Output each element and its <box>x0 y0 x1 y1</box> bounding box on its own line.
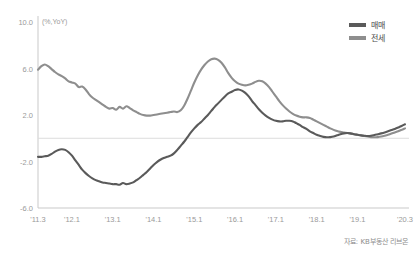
x-tick-label: '12.1 <box>64 215 80 224</box>
legend-label: 전세 <box>371 33 385 43</box>
y-tick-label: -2.0 <box>20 158 33 167</box>
x-tick-label: '13.1 <box>105 215 121 224</box>
x-tick-label: '14.1 <box>146 215 162 224</box>
x-tick-label: '15.1 <box>186 215 202 224</box>
chart-container: 10.06.02.0-2.0-6.0 '11.3'12.1'13.1'14.1'… <box>0 0 414 257</box>
y-tick-label: 10.0 <box>18 18 33 27</box>
line-chart: 10.06.02.0-2.0-6.0 '11.3'12.1'13.1'14.1'… <box>0 0 414 257</box>
x-tick-label: '20.3 <box>397 215 413 224</box>
x-tick-label: '17.1 <box>268 215 284 224</box>
x-tick-label: '16.1 <box>227 215 243 224</box>
legend-swatch <box>349 36 366 40</box>
x-tick-label: '18.1 <box>309 215 325 224</box>
y-tick-label: -6.0 <box>20 204 33 213</box>
x-tick-label: '19.1 <box>349 215 365 224</box>
x-tick-label: '11.3 <box>30 215 45 224</box>
y-tick-label: 6.0 <box>23 65 33 74</box>
unit-label: (%,YoY) <box>42 18 67 26</box>
y-tick-label: 2.0 <box>23 111 33 120</box>
legend-swatch <box>349 23 366 27</box>
legend-label: 매매 <box>371 21 385 30</box>
source-note: 자료: KB부동산 리브온 <box>344 237 409 246</box>
